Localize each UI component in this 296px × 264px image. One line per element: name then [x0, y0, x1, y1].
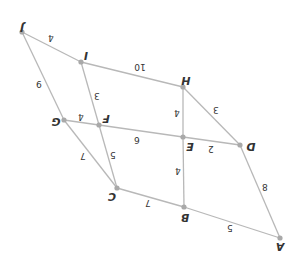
edge-weight-label: 3 — [94, 91, 100, 101]
edge-weight-label: 7 — [145, 198, 151, 208]
node-label-f: F — [102, 112, 110, 125]
node-label-j: J — [20, 21, 26, 34]
node-g — [61, 117, 66, 122]
node-label-b: B — [181, 211, 189, 224]
edge-weight-label: 10 — [134, 62, 146, 72]
edge-weight-label: 4 — [175, 166, 181, 176]
labels-layer: 4109343462754758ABCDEFGHIJ — [20, 21, 285, 253]
edge-weight-label: 5 — [110, 150, 116, 160]
edge-weight-label: 6 — [134, 135, 140, 145]
edge-weight-label: 9 — [36, 79, 42, 89]
node-label-a: A — [276, 240, 286, 253]
node-label-h: H — [181, 74, 190, 87]
edge-j-g — [22, 32, 64, 120]
edge-weight-label: 4 — [174, 108, 180, 118]
node-label-i: I — [84, 49, 88, 62]
edge-g-c — [64, 120, 117, 188]
graph-diagram: 4109343462754758ABCDEFGHIJ — [0, 0, 296, 264]
node-label-d: D — [246, 140, 255, 153]
edge-weight-label: 3 — [213, 105, 219, 115]
node-label-c: C — [108, 190, 116, 203]
node-b — [181, 204, 186, 209]
node-label-g: G — [51, 115, 60, 128]
edge-f-e — [99, 125, 183, 137]
node-label-e: E — [186, 140, 194, 153]
edge-weight-label: 8 — [262, 182, 268, 192]
node-e — [180, 134, 185, 139]
node-i — [78, 59, 83, 64]
node-d — [237, 142, 242, 147]
edge-weight-label: 5 — [227, 223, 233, 233]
edge-weight-label: 2 — [208, 144, 214, 154]
edge-weight-label: 4 — [78, 112, 84, 122]
edge-e-b — [183, 137, 184, 207]
edge-weight-label: 4 — [48, 33, 54, 43]
edge-d-a — [240, 145, 280, 238]
edge-weight-label: 7 — [80, 151, 86, 161]
edge-h-d — [183, 87, 240, 145]
edge-i-h — [81, 62, 183, 87]
node-f — [96, 122, 101, 127]
